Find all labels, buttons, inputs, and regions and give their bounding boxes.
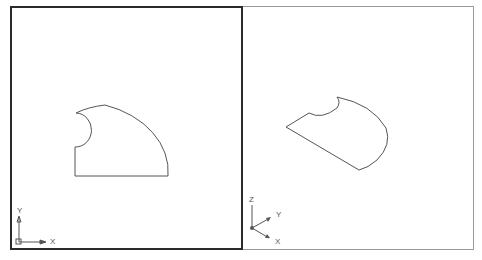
ucs-icon-3d: [250, 205, 271, 238]
shape-isometric-view[interactable]: [286, 97, 388, 170]
ucs-x-label: X: [50, 238, 55, 246]
ucs-icon-2d: [16, 216, 46, 244]
ucs-y-label: Y: [17, 207, 22, 215]
drawing-canvas: [0, 0, 482, 260]
ucs-x-label-3d: X: [275, 238, 280, 246]
ucs-z-label: Z: [249, 196, 254, 204]
ucs-y-label-3d: Y: [276, 211, 281, 219]
shape-plan-view[interactable]: [75, 105, 168, 176]
